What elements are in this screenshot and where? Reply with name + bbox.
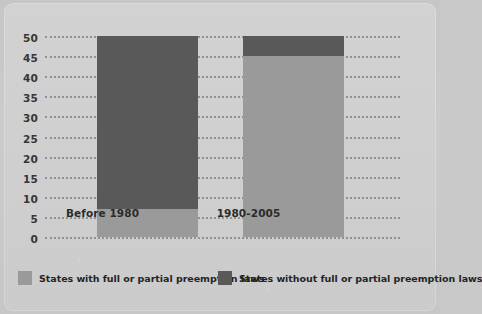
y-axis-tick-20: 20: [23, 153, 38, 165]
gridline-0: 0: [45, 237, 400, 239]
x-axis-label-1980-2005: 1980-2005: [198, 207, 299, 219]
y-axis-tick-35: 35: [23, 92, 38, 104]
y-axis-tick-40: 40: [23, 72, 38, 84]
y-axis-tick-45: 45: [23, 52, 38, 64]
x-axis-label-before-1980: Before 1980: [52, 207, 153, 219]
bar-segment-without-preemption-laws[interactable]: [243, 36, 344, 56]
legend-label-without-preemption-laws: States without full or partial preemptio…: [239, 273, 482, 284]
y-axis-tick-0: 0: [30, 233, 38, 245]
y-axis-tick-10: 10: [23, 193, 38, 205]
y-axis-tick-30: 30: [23, 112, 38, 124]
legend-item-without-preemption-laws: States without full or partial preemptio…: [218, 271, 422, 285]
y-axis-tick-5: 5: [30, 213, 38, 225]
legend-item-with-preemption-laws: States with full or partial preemption l…: [18, 271, 218, 285]
legend-swatch-dark: [218, 271, 232, 285]
legend-swatch-light: [18, 271, 32, 285]
y-axis-tick-50: 50: [23, 32, 38, 44]
y-axis-tick-25: 25: [23, 133, 38, 145]
y-axis-tick-15: 15: [23, 173, 38, 185]
chart-legend: States with full or partial preemption l…: [18, 271, 422, 285]
bar-segment-without-preemption-laws[interactable]: [97, 36, 198, 209]
